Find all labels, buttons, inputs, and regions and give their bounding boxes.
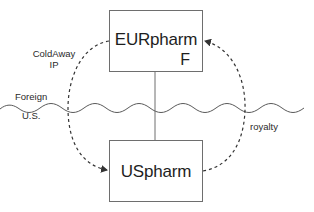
eurpharm-label: EURpharm — [110, 30, 202, 50]
royalty-flow-label: royalty — [250, 121, 278, 132]
ip-flow-label: ColdAway IP — [32, 48, 76, 70]
ip-flow-label-line2: IP — [32, 59, 76, 70]
border-wave-line — [0, 104, 304, 113]
eurpharm-subscript: F — [180, 51, 190, 69]
diagram-canvas: EURpharm F USpharm ColdAway IP Foreign U… — [0, 0, 314, 212]
royalty-flow-arrow — [203, 41, 245, 171]
foreign-region-label: Foreign — [15, 91, 47, 102]
uspharm-label: USpharm — [110, 162, 202, 182]
us-region-label: U.S. — [22, 110, 40, 121]
ip-flow-label-line1: ColdAway — [32, 48, 76, 59]
eurpharm-entity-box: EURpharm F — [109, 10, 203, 72]
uspharm-entity-box: USpharm — [109, 140, 203, 202]
